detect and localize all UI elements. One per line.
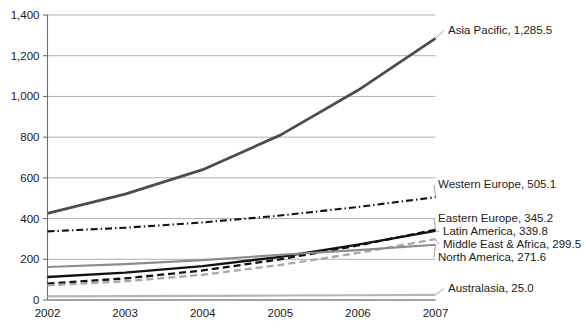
leader-line-western-europe	[434, 185, 436, 198]
x-axis-tick-labels: 200220032004200520062007	[35, 307, 449, 319]
series-annotations: Asia Pacific, 1,285.5Western Europe, 505…	[438, 24, 581, 294]
y-tick-label: 800	[20, 131, 39, 143]
chart-canvas: 02004006008001,0001,2001,400 20022003200…	[0, 0, 586, 329]
y-tick-label: 600	[20, 172, 39, 184]
series-label-eastern-europe: Eastern Europe, 345.2	[438, 212, 553, 224]
series-line-latin-america	[48, 231, 436, 277]
series-label-north-america: North America, 271.6	[438, 251, 546, 263]
y-tick-label: 200	[20, 253, 39, 265]
y-tick-label: 0	[33, 294, 39, 306]
x-tick-label-2002: 2002	[35, 307, 61, 319]
leader-line-latin-america	[436, 231, 440, 232]
series-label-latin-america: Latin America, 339.8	[443, 225, 548, 237]
series-label-western-europe: Western Europe, 505.1	[438, 178, 556, 190]
x-tick-label-2006: 2006	[345, 307, 371, 319]
data-series	[48, 38, 436, 296]
series-line-australasia	[48, 295, 436, 296]
x-tick-label-2007: 2007	[423, 307, 449, 319]
series-label-australasia: Australasia, 25.0	[448, 282, 534, 294]
series-line-asia-pacific	[48, 38, 436, 213]
x-tick-label-2005: 2005	[268, 307, 294, 319]
leader-line-eastern-europe	[434, 219, 436, 230]
series-line-western-europe	[48, 197, 436, 231]
x-tick-label-2004: 2004	[190, 307, 216, 319]
y-tick-label: 1,200	[11, 50, 40, 62]
leader-line-asia-pacific	[436, 31, 445, 39]
y-tick-label: 400	[20, 213, 39, 225]
leader-line-middle-east-africa	[436, 239, 440, 244]
y-tick-label: 1,000	[11, 90, 40, 102]
y-axis-tick-labels: 02004006008001,0001,2001,400	[11, 9, 40, 306]
x-tick-label-2003: 2003	[112, 307, 138, 319]
series-label-asia-pacific: Asia Pacific, 1,285.5	[448, 24, 552, 36]
series-line-north-america	[48, 245, 436, 267]
y-tick-label: 1,400	[11, 9, 40, 21]
line-chart: 02004006008001,0001,2001,400 20022003200…	[0, 0, 586, 329]
leader-line-north-america	[434, 245, 436, 258]
leader-line-australasia	[436, 289, 445, 295]
series-label-middle-east-africa: Middle East & Africa, 299.5	[443, 238, 581, 250]
